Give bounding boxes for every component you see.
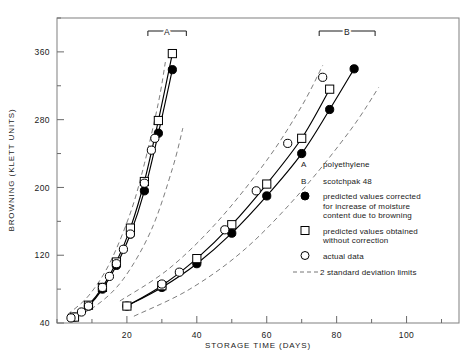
y-tick-label: 40 — [40, 318, 50, 328]
marker-open-circle — [67, 314, 75, 322]
marker-open-circle — [105, 272, 113, 280]
x-tick-label: 80 — [332, 330, 342, 340]
x-tick-label: 60 — [262, 330, 272, 340]
legend-item: actual data — [301, 252, 364, 261]
group-label-b: B — [344, 27, 350, 37]
marker-open-circle — [126, 230, 134, 238]
marker-filled-circle — [140, 187, 148, 195]
legend-label: scotchpak 48 — [323, 177, 372, 186]
standard-deviation-bands — [67, 62, 378, 320]
marker-open-square — [168, 49, 176, 57]
legend-open-circle-icon — [301, 252, 309, 260]
y-tick-label: 200 — [35, 183, 50, 193]
legend-label: without correction — [322, 236, 388, 245]
x-tick-label: 20 — [122, 330, 132, 340]
marker-open-square — [263, 180, 271, 188]
sd-limit-band — [67, 128, 182, 319]
marker-filled-circle — [263, 192, 271, 200]
marker-filled-circle — [350, 65, 358, 73]
legend-symbol-b: B — [301, 177, 307, 186]
legend-label: for increase of moisture — [323, 202, 411, 211]
plot-frame — [57, 18, 459, 323]
marker-filled-circle — [168, 66, 176, 74]
data-markers — [67, 49, 358, 322]
marker-open-square — [298, 134, 306, 142]
marker-open-circle — [319, 73, 327, 81]
marker-open-circle — [112, 260, 120, 268]
marker-open-square — [326, 85, 334, 93]
marker-open-circle — [140, 179, 148, 187]
x-tick-label: 100 — [399, 330, 414, 340]
y-axis-ticks: 40120200280360 — [35, 18, 64, 328]
legend-label: predicted values corrected — [323, 192, 421, 201]
marker-open-square — [154, 116, 162, 124]
legend-label: predicted values obtained — [323, 227, 418, 236]
legend-item: Apolyethylene — [301, 160, 370, 169]
chart-legend: ApolyethyleneBscotchpak 48predicted valu… — [293, 160, 421, 277]
browning-vs-storage-time-chart: 20406080100 40120200280360 AABB STORAGE … — [0, 0, 476, 358]
legend-item: predicted values obtainedwithout correct… — [301, 227, 418, 246]
marker-filled-circle — [326, 105, 334, 113]
legend-label: actual data — [323, 252, 364, 261]
marker-open-circle — [119, 245, 127, 253]
marker-open-circle — [147, 146, 155, 154]
x-tick-label: 40 — [192, 330, 202, 340]
marker-open-circle — [77, 308, 85, 316]
legend-item: Bscotchpak 48 — [301, 177, 372, 186]
x-axis-ticks: 20406080100 — [57, 316, 442, 340]
sd-limit-band — [67, 62, 165, 314]
marker-open-circle — [252, 187, 260, 195]
legend-label: polyethylene — [323, 160, 370, 169]
marker-open-circle — [158, 280, 166, 288]
legend-open-square-icon — [301, 227, 309, 235]
legend-item: predicted values correctedfor increase o… — [301, 192, 421, 220]
group-brackets: AABB — [148, 27, 375, 37]
legend-filled-circle-icon — [301, 192, 309, 200]
legend-symbol-a: A — [301, 160, 307, 169]
group-label-a: A — [164, 27, 170, 37]
chart-svg: 20406080100 40120200280360 AABB STORAGE … — [0, 0, 476, 358]
legend-label: 2 standard deviation limits — [320, 268, 417, 277]
marker-filled-circle — [298, 149, 306, 157]
y-tick-label: 360 — [35, 47, 50, 57]
y-axis-title: BROWNING (KLETT UNITS) — [7, 108, 16, 231]
y-tick-label: 120 — [35, 250, 50, 260]
legend-label: content due to browning — [323, 211, 412, 220]
marker-open-circle — [221, 226, 229, 234]
marker-open-circle — [175, 268, 183, 276]
marker-open-square — [193, 255, 201, 263]
y-tick-label: 280 — [35, 115, 50, 125]
marker-open-square — [123, 302, 131, 310]
x-axis-title: STORAGE TIME (DAYS) — [205, 341, 311, 350]
series-line — [162, 77, 323, 284]
legend-item: 2 standard deviation limits — [293, 268, 417, 277]
marker-open-circle — [98, 283, 106, 291]
sd-limit-band — [120, 65, 323, 301]
marker-open-circle — [284, 139, 292, 147]
marker-open-circle — [151, 134, 159, 142]
marker-open-circle — [84, 302, 92, 310]
marker-open-square — [228, 221, 236, 229]
